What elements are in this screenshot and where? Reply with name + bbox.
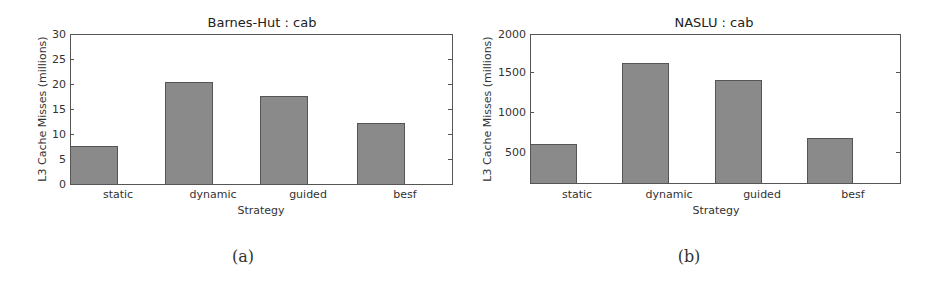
chart-b-xtick-besf: besf: [841, 188, 864, 201]
chart-a-ytick: 30: [26, 28, 66, 41]
chart-a-tick-mark: [70, 109, 74, 110]
chart-a-ytick: 20: [26, 78, 66, 91]
chart-b-xtick-dynamic: dynamic: [645, 188, 692, 201]
chart-a-title: Barnes-Hut : cab: [208, 15, 317, 30]
chart-a-tick-mark: [70, 134, 74, 135]
chart-a-bar-static: [70, 146, 118, 185]
chart-b-xtick-static: static: [562, 188, 592, 201]
chart-a-xtick-static: static: [103, 188, 133, 201]
chart-b-tick-mark: [530, 112, 534, 113]
chart-b-ytick: 500: [486, 146, 526, 159]
chart-a-tick-mark: [448, 134, 452, 135]
chart-b-ytick: 1000: [486, 106, 526, 119]
chart-b-tick-mark: [896, 72, 900, 73]
chart-a-xtick-dynamic: dynamic: [189, 188, 236, 201]
chart-a-tick-mark: [448, 59, 452, 60]
chart-a-ytick: 0: [26, 178, 66, 191]
chart-a-tick-mark: [448, 109, 452, 110]
chart-b-bar-dynamic: [622, 63, 669, 184]
chart-a-ytick: 15: [26, 103, 66, 116]
chart-a-caption: (a): [232, 247, 254, 266]
chart-a-bar-guided: [260, 96, 308, 185]
chart-b-ytick: 2000: [486, 28, 526, 41]
chart-a-tick-mark: [70, 84, 74, 85]
chart-a-ytick: 25: [26, 53, 66, 66]
chart-a-tick-mark: [70, 59, 74, 60]
chart-b-tick-mark: [896, 152, 900, 153]
chart-b-tick-mark: [896, 112, 900, 113]
chart-b-bar-static: [530, 144, 577, 184]
chart-b-xtick-guided: guided: [743, 188, 781, 201]
chart-a-bar-dynamic: [165, 82, 213, 185]
chart-b-title: NASLU : cab: [675, 15, 754, 30]
chart-b-caption: (b): [678, 247, 701, 266]
chart-a-tick-mark: [448, 84, 452, 85]
chart-a-xtick-besf: besf: [393, 188, 416, 201]
chart-b-xlabel: Strategy: [692, 204, 739, 217]
chart-a-tick-mark: [448, 159, 452, 160]
chart-b-bar-guided: [715, 80, 762, 184]
chart-a-xlabel: Strategy: [237, 204, 284, 217]
chart-a-ytick: 5: [26, 153, 66, 166]
chart-b-ytick: 1500: [486, 66, 526, 79]
chart-b-tick-mark: [530, 72, 534, 73]
chart-a-xtick-guided: guided: [289, 188, 327, 201]
chart-b-bar-besf: [807, 138, 853, 184]
chart-a-ytick: 10: [26, 128, 66, 141]
chart-a-bar-besf: [357, 123, 405, 185]
